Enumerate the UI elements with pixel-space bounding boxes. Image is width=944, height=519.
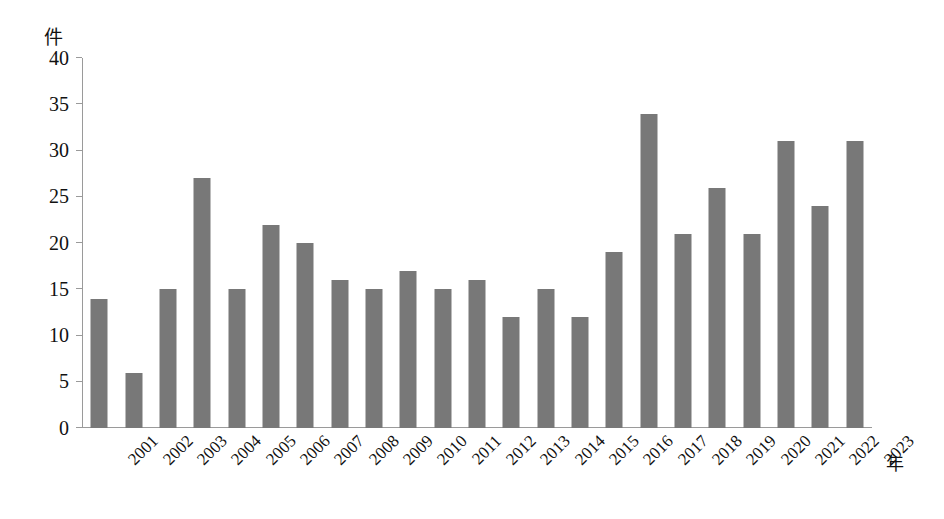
- bar-slot: [82, 58, 116, 428]
- y-tick-label: 20: [49, 233, 69, 253]
- x-tick-label-2018: 2018: [709, 432, 745, 468]
- bar-slot: [219, 58, 253, 428]
- x-tick-label-2017: 2017: [675, 432, 711, 468]
- bar-slot: [425, 58, 459, 428]
- y-tick-label: 25: [49, 186, 69, 206]
- x-tick-label-2006: 2006: [297, 432, 333, 468]
- x-tick-label-2011: 2011: [468, 432, 504, 468]
- bar-2021: [778, 141, 795, 428]
- bar-slot: [666, 58, 700, 428]
- y-tick-label: 30: [49, 140, 69, 160]
- x-tick-label-2010: 2010: [434, 432, 470, 468]
- x-tick-label-2008: 2008: [366, 432, 402, 468]
- bar-slot: [151, 58, 185, 428]
- y-tick-label: 0: [59, 418, 69, 438]
- x-tick-label-2007: 2007: [331, 432, 367, 468]
- y-tick-label: 40: [49, 48, 69, 68]
- bar-slot: [803, 58, 837, 428]
- bar-2002: [125, 373, 142, 429]
- bar-2007: [297, 243, 314, 428]
- bar-2009: [365, 289, 382, 428]
- bar-2018: [675, 234, 692, 428]
- x-tick-label-2001: 2001: [125, 432, 161, 468]
- bar-2022: [812, 206, 829, 428]
- bar-slot: [529, 58, 563, 428]
- bar-chart: 件 4035302520151050 200120022003200420052…: [0, 0, 944, 519]
- bar-slot: [769, 58, 803, 428]
- bar-2003: [159, 289, 176, 428]
- bar-2015: [572, 317, 589, 428]
- bar-slot: [563, 58, 597, 428]
- bar-slot: [632, 58, 666, 428]
- bar-slot: [254, 58, 288, 428]
- bar-slot: [357, 58, 391, 428]
- bar-slot: [185, 58, 219, 428]
- bar-slot: [391, 58, 425, 428]
- x-tick-label-2020: 2020: [778, 432, 814, 468]
- bar-2006: [262, 225, 279, 429]
- x-tick-label-2002: 2002: [159, 432, 195, 468]
- bar-2008: [331, 280, 348, 428]
- bar-2023: [846, 141, 863, 428]
- y-axis-unit-label: 件: [44, 28, 63, 47]
- y-tick-label: 15: [49, 279, 69, 299]
- bar-slot: [322, 58, 356, 428]
- bar-2016: [606, 252, 623, 428]
- bar-slot: [460, 58, 494, 428]
- bar-2011: [434, 289, 451, 428]
- bar-slot: [494, 58, 528, 428]
- x-tick-label-2003: 2003: [194, 432, 230, 468]
- x-tick-label-2009: 2009: [400, 432, 436, 468]
- x-tick-label-2014: 2014: [572, 432, 608, 468]
- bar-slot: [838, 58, 872, 428]
- x-tick-label-2005: 2005: [263, 432, 299, 468]
- bar-2017: [640, 114, 657, 429]
- bar-2020: [743, 234, 760, 428]
- bar-2019: [709, 188, 726, 429]
- plot-area: 4035302520151050: [82, 58, 872, 428]
- x-tick-label-2021: 2021: [812, 432, 848, 468]
- bar-slot: [735, 58, 769, 428]
- bar-2013: [503, 317, 520, 428]
- bar-2012: [468, 280, 485, 428]
- bar-slot: [288, 58, 322, 428]
- y-tick-label: 10: [49, 325, 69, 345]
- bar-2014: [537, 289, 554, 428]
- x-tick-label-2016: 2016: [640, 432, 676, 468]
- bar-slot: [116, 58, 150, 428]
- y-tick-label: 35: [49, 94, 69, 114]
- bar-slot: [700, 58, 734, 428]
- x-tick-label-2022: 2022: [846, 432, 882, 468]
- x-axis-tick-labels: 2001200220032004200520062007200820092010…: [82, 432, 872, 502]
- x-tick-label-2013: 2013: [537, 432, 573, 468]
- bar-2004: [194, 178, 211, 428]
- x-tick-label-2012: 2012: [503, 432, 539, 468]
- x-tick-label-2019: 2019: [743, 432, 779, 468]
- bar-slot: [597, 58, 631, 428]
- bar-2001: [91, 299, 108, 429]
- x-axis-unit-label: 年: [886, 455, 904, 473]
- x-tick-label-2015: 2015: [606, 432, 642, 468]
- x-tick-label-2004: 2004: [228, 432, 264, 468]
- bar-2010: [400, 271, 417, 428]
- bar-series: [82, 58, 872, 428]
- bar-2005: [228, 289, 245, 428]
- y-tick-label: 5: [59, 371, 69, 391]
